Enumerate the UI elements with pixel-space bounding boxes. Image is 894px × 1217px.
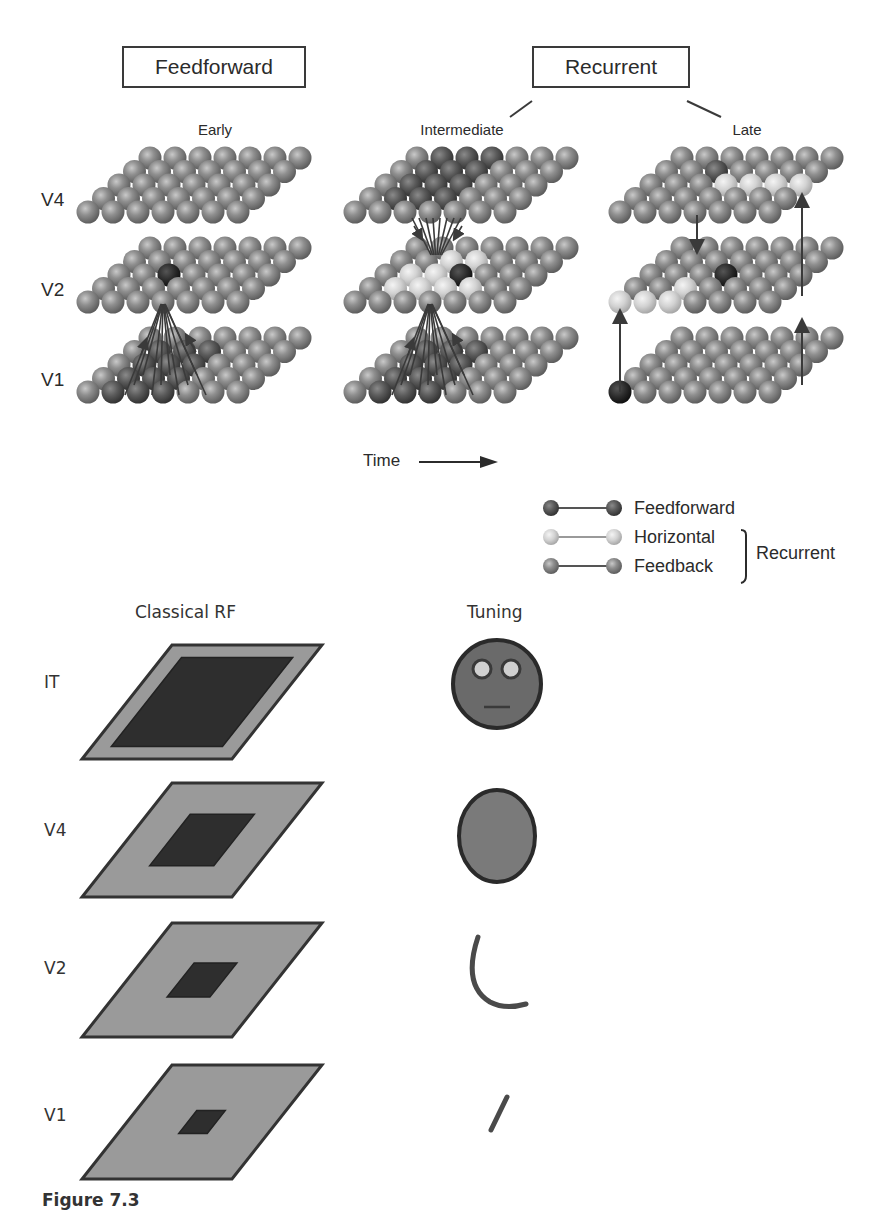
neuron-sphere — [344, 381, 367, 404]
neuron-sphere — [344, 291, 367, 314]
face-tuning-icon — [453, 640, 541, 728]
horizontal-legend-icon — [543, 529, 622, 545]
rf-area-label-v4: V4 — [44, 820, 66, 840]
neuron-sphere — [709, 381, 732, 404]
legend-group-recurrent: Recurrent — [756, 543, 835, 564]
neuron-sphere — [684, 291, 707, 314]
neuron-sphere — [102, 201, 125, 224]
neuron-sphere — [419, 201, 442, 224]
neuron-sphere — [684, 201, 707, 224]
neuron-sphere — [469, 201, 492, 224]
neuron-sphere — [77, 291, 100, 314]
recurrent-bracket-icon — [741, 530, 746, 583]
connection-arrow — [456, 226, 462, 236]
curve-tuning-icon — [472, 937, 526, 1007]
layer-v4-late — [609, 147, 844, 224]
neuron-sphere — [202, 291, 225, 314]
neuron-sphere — [444, 291, 467, 314]
neuron-sphere — [469, 291, 492, 314]
stage-label-late: Late — [677, 121, 817, 138]
neuron-sphere — [127, 201, 150, 224]
layer-v2-early — [77, 237, 312, 314]
neuron-sphere — [369, 291, 392, 314]
recurrent-connector-right — [687, 101, 721, 117]
neuron-sphere — [102, 381, 125, 404]
neuron-sphere — [494, 381, 517, 404]
layer-v2-late — [609, 237, 844, 314]
neuron-sphere — [419, 381, 442, 404]
receptive-field-shapes — [82, 645, 322, 1179]
layer-v4-early — [77, 147, 312, 224]
neuron-sphere — [152, 381, 175, 404]
legend-label-feedforward: Feedforward — [634, 498, 735, 519]
neuron-sphere — [734, 201, 757, 224]
recurrent-header-box: Recurrent — [532, 46, 690, 88]
area-label-v4: V4 — [41, 189, 64, 211]
column-header-tuning: Tuning — [467, 602, 523, 622]
figure-caption: Figure 7.3 — [42, 1190, 140, 1210]
neuron-sphere — [734, 381, 757, 404]
neuron-sphere — [709, 291, 732, 314]
layer-v4-intermediate — [344, 147, 579, 224]
neuron-sphere — [659, 381, 682, 404]
neuron-sphere — [494, 291, 517, 314]
neuron-sphere — [177, 201, 200, 224]
neuron-sphere — [494, 201, 517, 224]
rf-area-label-v1: V1 — [44, 1105, 66, 1125]
neuron-sphere — [369, 201, 392, 224]
neuron-sphere — [102, 291, 125, 314]
layer-v1-early — [77, 327, 312, 404]
neuron-sphere — [369, 381, 392, 404]
feedforward-legend-icon — [543, 500, 622, 516]
stage-label-intermediate: Intermediate — [392, 121, 532, 138]
line-tuning-icon — [491, 1097, 507, 1130]
neuron-sphere — [684, 381, 707, 404]
neuron-sphere — [127, 291, 150, 314]
neuron-sphere — [634, 291, 657, 314]
area-label-v1: V1 — [41, 369, 64, 391]
neuron-sphere — [77, 381, 100, 404]
neuron-sphere — [659, 291, 682, 314]
neuron-sphere — [177, 291, 200, 314]
neuron-sphere — [734, 291, 757, 314]
neuron-sphere — [227, 291, 250, 314]
neuron-sphere — [634, 381, 657, 404]
neuron-sphere — [227, 201, 250, 224]
time-arrow-icon — [419, 456, 498, 468]
stage-label-early: Early — [145, 121, 285, 138]
recurrent-connector-left — [510, 101, 532, 117]
feedforward-header-box: Feedforward — [122, 46, 306, 88]
legend-label-feedback: Feedback — [634, 556, 713, 577]
neuron-sphere — [759, 201, 782, 224]
layer-v1-late — [609, 327, 844, 404]
neuron-sphere — [759, 291, 782, 314]
neuron-sphere — [394, 291, 417, 314]
rf-area-label-v2: V2 — [44, 958, 66, 978]
circle-tuning-icon — [459, 790, 535, 882]
neuron-sphere — [709, 201, 732, 224]
time-label: Time — [363, 451, 400, 471]
neuron-sphere — [202, 201, 225, 224]
neuron-sphere — [634, 201, 657, 224]
neuron-sphere — [609, 201, 632, 224]
neuron-sphere — [77, 201, 100, 224]
layer-v1-intermediate — [344, 327, 579, 404]
legend-label-horizontal: Horizontal — [634, 527, 715, 548]
rf-area-label-it: IT — [44, 672, 59, 692]
column-header-classical-rf: Classical RF — [135, 602, 236, 622]
tuning-glyphs — [453, 640, 541, 1130]
neuron-sphere — [609, 291, 632, 314]
layer-v2-intermediate — [344, 237, 579, 314]
neuron-sphere — [152, 201, 175, 224]
neuron-sphere — [344, 201, 367, 224]
feedback-legend-icon — [543, 558, 622, 574]
neuron-sphere — [227, 381, 250, 404]
neuron-sphere — [659, 201, 682, 224]
neuron-sphere — [759, 381, 782, 404]
area-label-v2: V2 — [41, 279, 64, 301]
